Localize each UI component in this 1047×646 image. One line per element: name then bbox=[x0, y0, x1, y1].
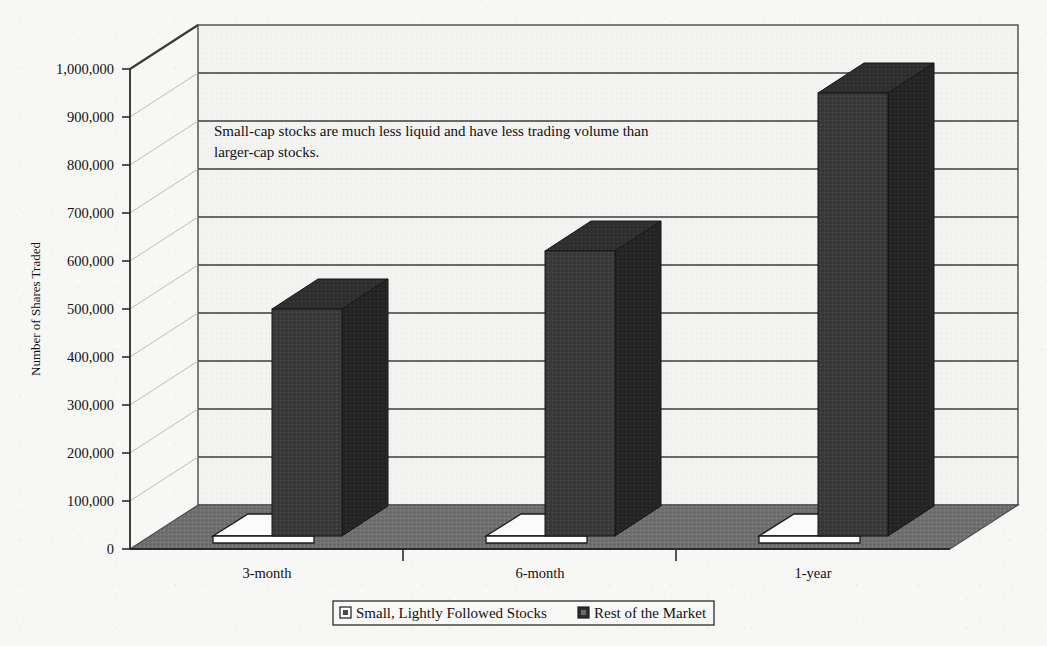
y-tick-label: 300,000 bbox=[67, 397, 114, 413]
y-tick-label: 400,000 bbox=[67, 349, 114, 365]
y-tick-labels: 1,000,000 900,000 800,000 700,000 600,00… bbox=[56, 61, 114, 557]
chart-legend: Small, Lightly Followed Stocks Rest of t… bbox=[333, 601, 714, 625]
legend-label-rest-of-the-market: Rest of the Market bbox=[594, 605, 707, 621]
annotation-line-2: larger-cap stocks. bbox=[214, 144, 319, 160]
bar-3-month-rest-of-the-market bbox=[272, 279, 388, 536]
y-tick-label: 800,000 bbox=[67, 157, 114, 173]
wall-top-edge bbox=[130, 25, 198, 69]
y-tick-label: 500,000 bbox=[67, 301, 114, 317]
bar-1-year-rest-of-the-market bbox=[818, 63, 934, 536]
legend-item-rest-of-the-market[interactable]: Rest of the Market bbox=[578, 605, 707, 621]
annotation-line-1: Small-cap stocks are much less liquid an… bbox=[214, 123, 649, 139]
bar-6-month-rest-of-the-market bbox=[545, 221, 661, 536]
legend-item-small-lightly-followed-stocks[interactable]: Small, Lightly Followed Stocks bbox=[340, 605, 547, 621]
x-tick-label-3-month: 3-month bbox=[242, 565, 292, 581]
legend-label-small-lightly-followed-stocks: Small, Lightly Followed Stocks bbox=[356, 605, 547, 621]
x-category-labels: 3-month 6-month 1-year bbox=[242, 565, 831, 581]
x-axis bbox=[130, 549, 950, 561]
depth-connector-lines bbox=[130, 25, 198, 501]
y-tick-label: 200,000 bbox=[67, 445, 114, 461]
chart-plot-area: 1,000,000 900,000 800,000 700,000 600,00… bbox=[0, 0, 1047, 646]
chart-svg: 1,000,000 900,000 800,000 700,000 600,00… bbox=[0, 0, 1047, 646]
x-tick-label-1-year: 1-year bbox=[794, 565, 831, 581]
y-tick-label: 700,000 bbox=[67, 205, 114, 221]
y-axis-title: Number of Shares Traded bbox=[28, 242, 43, 376]
y-tick-label: 1,000,000 bbox=[56, 61, 114, 77]
y-tick-label: 900,000 bbox=[67, 109, 114, 125]
y-axis bbox=[122, 69, 130, 549]
legend-swatch-dark-inner-icon bbox=[581, 610, 586, 615]
y-tick-label: 100,000 bbox=[67, 493, 114, 509]
y-tick-label: 0 bbox=[107, 541, 114, 557]
x-tick-label-6-month: 6-month bbox=[515, 565, 565, 581]
legend-swatch-light-inner-icon bbox=[343, 610, 348, 615]
y-tick-label: 600,000 bbox=[67, 253, 114, 269]
chart-screenshot: 1,000,000 900,000 800,000 700,000 600,00… bbox=[0, 0, 1047, 646]
